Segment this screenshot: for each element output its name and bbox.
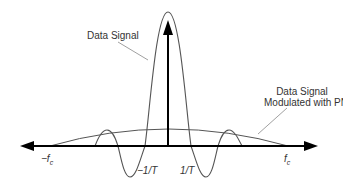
pos-fc-subscript: c bbox=[287, 159, 291, 166]
impulse-arrow-up-icon bbox=[163, 20, 173, 35]
neg-inverse-t-label: −1/T bbox=[137, 165, 157, 176]
modulated-signal-label-line1: Data Signal bbox=[264, 86, 340, 97]
pos-fc-label: fc bbox=[284, 153, 290, 168]
axis-arrow-right-icon bbox=[304, 141, 318, 151]
modulated-signal-label: Data Signal Modulated with PN bbox=[264, 86, 340, 108]
data-signal-label: Data Signal bbox=[87, 30, 139, 41]
axis-arrow-left-icon bbox=[20, 141, 34, 151]
neg-fc-label: −fc bbox=[41, 153, 53, 168]
modulated-signal-pointer bbox=[258, 108, 287, 134]
neg-fc-subscript: c bbox=[50, 159, 54, 166]
pos-inverse-t-label: 1/T bbox=[180, 165, 194, 176]
modulated-signal-label-line2: Modulated with PN bbox=[264, 97, 340, 108]
data-signal-pointer bbox=[118, 42, 148, 60]
neg-fc-text: −f bbox=[41, 153, 50, 164]
